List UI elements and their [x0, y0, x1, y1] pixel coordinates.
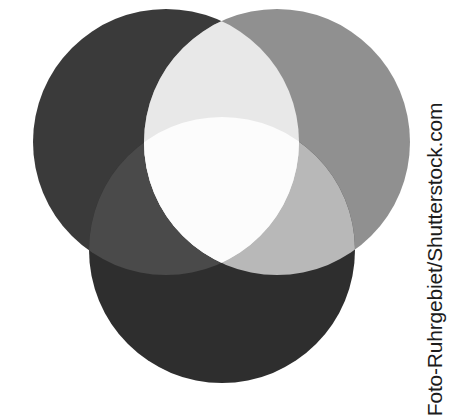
venn-diagram-stage — [0, 0, 412, 400]
watermark-text: Foto-Ruhrgebiet/Shutterstock.com — [425, 103, 446, 416]
venn-diagram-svg — [0, 0, 412, 400]
watermark: Foto-Ruhrgebiet/Shutterstock.com — [413, 0, 456, 408]
